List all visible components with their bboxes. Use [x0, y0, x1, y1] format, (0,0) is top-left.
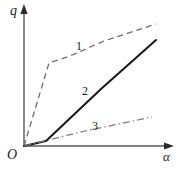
y-axis-arrow-icon — [20, 4, 27, 14]
curve-2-label: 2 — [82, 85, 88, 97]
origin-label: O — [7, 148, 17, 162]
y-axis-label: q — [10, 4, 17, 18]
figure-container: q α O 1 2 3 — [0, 0, 181, 169]
chart-plot-area — [0, 0, 181, 169]
curve-3-line — [24, 117, 152, 146]
curve-1-label: 1 — [76, 40, 82, 52]
x-axis-label: α — [163, 150, 170, 163]
curve-1-line — [24, 24, 156, 146]
curve-2-line — [24, 40, 156, 146]
curve-3-label: 3 — [92, 120, 98, 132]
